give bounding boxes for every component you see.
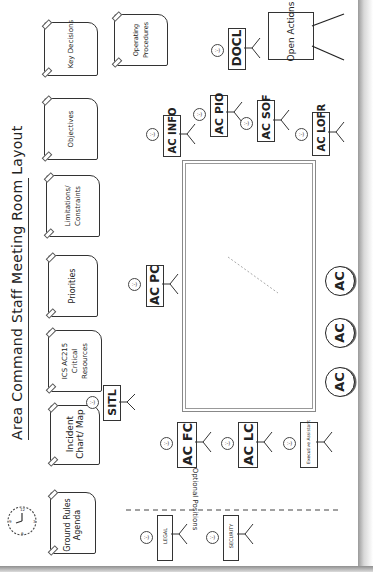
easel-open-actions: Open Actions [268,12,314,60]
optional-positions-label: Optional Positions [191,454,199,544]
figure-body-icon [273,108,293,132]
chart-key-decisions: Key Decisions [44,22,98,76]
figure-body-icon [237,522,257,546]
chart-ground-rules: Ground Rules Agenda [50,492,96,554]
figure-body-icon [256,430,276,454]
figure-body-icon [162,272,182,296]
head-icon: :-) [193,108,206,121]
head-icon: :-) [283,437,296,450]
ac-seat-3: AC [325,266,355,296]
easel-legs [312,10,348,64]
chart-operating-procedures: Operating Procedures [114,14,168,66]
optional-divider-line [126,508,346,512]
ac-seat-1: AC [325,367,355,397]
head-icon: :-) [211,44,224,57]
chart-limitations: Limitations/ Constraints [46,175,100,237]
head-icon: :-) [206,531,219,544]
head-icon: :-) [128,278,141,291]
svg-text:12: 12 [20,507,26,512]
head-icon: :-) [240,117,253,130]
chart-ics-ac215: ICS AC215 Critical Resources [48,330,102,392]
figure-body-icon [244,36,264,60]
chart-incident: Incident Chart/ Map [50,405,100,465]
head-icon: :-) [86,396,99,409]
table-center-line [228,257,288,297]
page-shadow-right [358,0,373,572]
head-icon: :-) [146,128,159,141]
head-icon: :-) [295,128,308,141]
figure-body-icon [195,430,215,454]
figure-body-icon [316,430,336,454]
head-icon: :-) [221,437,234,450]
figure-body-icon [179,122,199,146]
figure-body-icon [328,120,348,144]
chart-priorities: Priorities [48,255,98,317]
head-icon: :-) [140,531,153,544]
ac-seat-2: AC [325,318,355,348]
page-title: Area Command Staff Meeting Room Layout [9,178,29,440]
page-shadow-bottom [0,566,373,572]
chart-objectives: Objectives [44,98,98,160]
head-icon: :-) [160,437,173,450]
figure-body-icon [119,390,139,410]
figure-body-icon [171,522,191,546]
position-ac-lc: AC LC [238,422,258,468]
clock-icon: 12 3 6 9 [6,505,38,537]
